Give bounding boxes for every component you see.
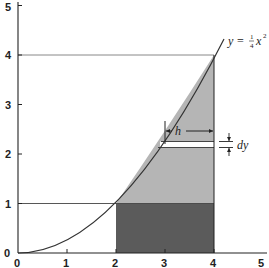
svg-text:1: 1 xyxy=(250,33,254,41)
svg-text:4: 4 xyxy=(250,42,254,50)
dy-strip xyxy=(160,142,214,148)
y-ticks xyxy=(18,6,22,204)
dy-label: dy xyxy=(237,138,249,152)
y-tick-label-4: 4 xyxy=(5,49,12,61)
y-tick-label-5: 5 xyxy=(5,1,11,13)
x-tick-label-4: 4 xyxy=(210,257,217,268)
y-tick-label-3: 3 xyxy=(5,99,11,111)
svg-text:y: y xyxy=(227,34,234,48)
y-tick-label-0: 0 xyxy=(4,247,10,259)
dark-rectangle-region xyxy=(116,204,214,254)
x-tick-label-3: 3 xyxy=(161,257,167,268)
dy-annotation: dy xyxy=(219,133,249,156)
x-tick-label-0: 0 xyxy=(14,257,20,268)
curve-equation-label: y = 1 4 x 2 xyxy=(227,32,267,50)
svg-text:2: 2 xyxy=(263,32,267,40)
svg-text:=: = xyxy=(237,34,244,48)
x-tick-label-5: 5 xyxy=(258,257,264,268)
y-tick-label-1: 1 xyxy=(5,198,11,210)
area-diagram: 0 1 2 3 4 5 0 1 2 3 4 5 h dy y = 1 4 x 2 xyxy=(0,0,269,268)
x-tick-label-1: 1 xyxy=(63,257,69,268)
h-label: h xyxy=(175,124,181,138)
y-tick-label-2: 2 xyxy=(5,148,11,160)
x-tick-label-2: 2 xyxy=(112,257,118,268)
svg-text:x: x xyxy=(255,34,262,48)
